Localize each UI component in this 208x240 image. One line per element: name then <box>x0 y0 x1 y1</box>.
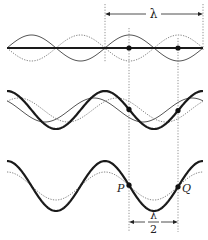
point-q-marker <box>175 108 180 113</box>
half-wavelength-dimension: λ 2 <box>129 209 178 236</box>
point-p-marker <box>126 45 131 50</box>
row-2-partial-superposition <box>7 91 203 129</box>
row-3-amplitude-difference <box>7 161 203 211</box>
row-1-standing-wave-node <box>7 35 203 61</box>
wave-rows <box>7 35 203 211</box>
arrowhead-left-icon <box>129 220 134 224</box>
wavelength-label: λ <box>150 7 158 21</box>
wave-dotted <box>7 98 203 122</box>
resultant-heavy <box>7 91 203 129</box>
wavelength-dimension: λ <box>105 7 203 21</box>
arrowhead-left-icon <box>105 12 110 16</box>
arrowhead-right-icon <box>173 220 178 224</box>
guide-lines <box>105 4 203 232</box>
wave-dotted <box>7 172 203 200</box>
half-wavelength-denominator: 2 <box>150 223 157 236</box>
point-q-label: Q <box>182 182 191 195</box>
point-q-marker <box>175 45 180 50</box>
resultant-heavy <box>7 161 203 211</box>
point-p-label: P <box>116 182 125 195</box>
wave-diagram: λ λ 2 P Q <box>0 0 208 240</box>
half-wavelength-numerator: λ <box>150 209 157 222</box>
point-q-marker <box>175 184 180 189</box>
wave-solid-thin <box>7 98 203 122</box>
arrowhead-right-icon <box>198 12 203 16</box>
point-p-marker <box>126 107 131 112</box>
point-p-marker <box>126 183 131 188</box>
